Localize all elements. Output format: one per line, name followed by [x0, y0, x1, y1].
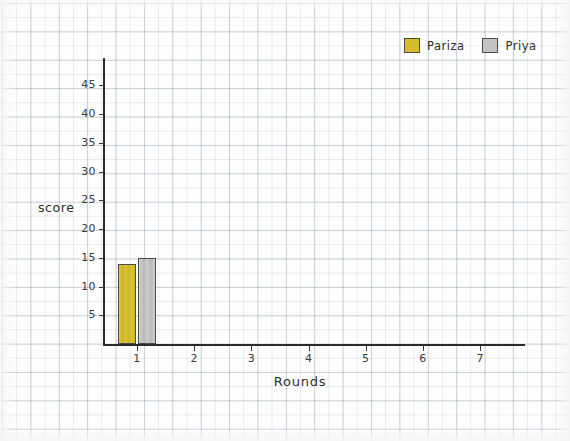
y-tick-label: 20	[72, 222, 96, 235]
y-tick-mark	[99, 85, 104, 86]
x-tick-label: 3	[239, 352, 263, 365]
y-tick-label: 35	[72, 136, 96, 149]
y-tick-label: 5	[72, 308, 96, 321]
x-tick-mark	[366, 346, 367, 351]
y-tick-mark	[99, 114, 104, 115]
x-tick-label: 7	[468, 352, 492, 365]
legend-label-pariza: Pariza	[427, 39, 464, 53]
x-tick-label: 1	[125, 352, 149, 365]
legend-item-pariza[interactable]: Pariza	[404, 38, 464, 53]
x-axis-title: Rounds	[0, 374, 570, 389]
bar-priya-round-1[interactable]	[138, 258, 156, 344]
y-tick-label: 10	[72, 280, 96, 293]
legend-label-priya: Priya	[505, 39, 536, 53]
x-axis-line	[103, 344, 525, 346]
y-tick-mark	[99, 315, 104, 316]
x-tick-label: 6	[411, 352, 435, 365]
y-tick-mark	[99, 229, 104, 230]
y-tick-mark	[99, 200, 104, 201]
y-axis-line	[103, 58, 105, 346]
x-tick-mark	[194, 346, 195, 351]
graph-paper-background: score Rounds 51015202530354045 1234567 P…	[0, 0, 570, 441]
gray-swatch-icon	[482, 38, 498, 53]
x-tick-mark	[251, 346, 252, 351]
bar-pariza-round-1[interactable]	[118, 264, 136, 345]
yellow-swatch-icon	[404, 38, 420, 53]
y-tick-label: 45	[72, 78, 96, 91]
x-tick-mark	[137, 346, 138, 351]
x-tick-label: 2	[182, 352, 206, 365]
x-axis-title-text: Rounds	[274, 374, 327, 389]
x-tick-label: 4	[297, 352, 321, 365]
chart-plot-area: score Rounds 51015202530354045 1234567 P…	[0, 0, 570, 441]
y-tick-mark	[99, 143, 104, 144]
x-tick-mark	[480, 346, 481, 351]
x-tick-label: 5	[354, 352, 378, 365]
y-axis-title: score	[38, 200, 75, 215]
y-tick-mark	[99, 258, 104, 259]
y-tick-mark	[99, 287, 104, 288]
x-tick-mark	[309, 346, 310, 351]
y-tick-label: 40	[72, 107, 96, 120]
y-tick-mark	[99, 172, 104, 173]
legend-item-priya[interactable]: Priya	[482, 38, 536, 53]
y-tick-label: 15	[72, 251, 96, 264]
y-tick-label: 30	[72, 165, 96, 178]
y-tick-label: 25	[72, 193, 96, 206]
x-tick-mark	[423, 346, 424, 351]
chart-legend: Pariza Priya	[404, 38, 537, 53]
